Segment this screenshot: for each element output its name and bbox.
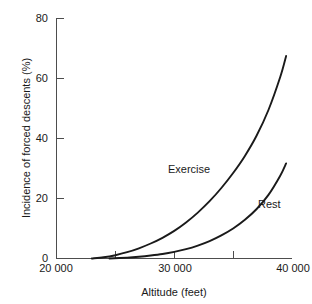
y-axis-title: Incidence of forced descents (%) <box>20 28 32 248</box>
x-tick-label-40000: 40 000 <box>258 263 312 274</box>
series-line-exercise <box>92 56 286 259</box>
x-axis-title: Altitude (feet) <box>56 286 292 298</box>
x-tick-label-20000: 20 000 <box>21 263 91 274</box>
series-label-exercise: Exercise <box>168 164 210 175</box>
y-tick-label-80: 80 <box>14 13 48 24</box>
x-tick-label-30000: 30 000 <box>140 263 210 274</box>
series-line-rest <box>109 163 286 258</box>
series-label-rest: Rest <box>258 199 281 210</box>
chart-figure: 80 60 40 20 0 20 000 30 000 40 000 Altit… <box>0 0 312 304</box>
